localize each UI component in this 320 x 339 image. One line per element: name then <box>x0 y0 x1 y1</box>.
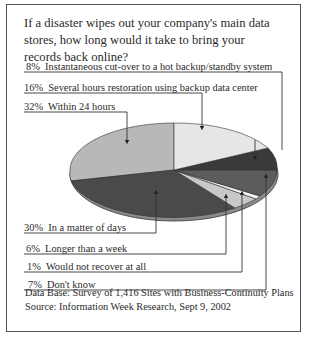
footer-database-note: Data Base: Survey of 1,416 Sites with Bu… <box>25 286 294 300</box>
pie-top <box>70 123 277 217</box>
label-several-hours: 16% Several hours restoration using back… <box>24 82 258 94</box>
chart-footer: Data Base: Survey of 1,416 Sites with Bu… <box>25 286 294 314</box>
label-within-24-hours: 32% Within 24 hours <box>24 101 115 113</box>
label-would-not-recover: 1% Would not recover at all <box>27 261 146 273</box>
footer-source: Source: Information Week Research, Sept … <box>25 300 294 314</box>
label-matter-of-days: 30% In a matter of days <box>24 222 126 234</box>
label-instantaneous: 8% Instantaneous cut-over to a hot backu… <box>26 61 272 73</box>
label-longer-than-week: 6% Longer than a week <box>26 243 127 255</box>
